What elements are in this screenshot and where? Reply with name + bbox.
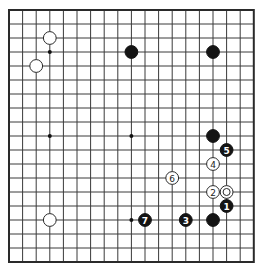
star-point	[129, 134, 133, 138]
move-number: 5	[223, 146, 229, 156]
white-stone-disc	[43, 214, 56, 227]
black-stone	[207, 46, 220, 59]
black-stone-disc	[125, 46, 138, 59]
black-stone: 7	[139, 214, 152, 227]
black-stone	[207, 214, 220, 227]
black-stone-disc	[207, 214, 220, 227]
move-number: 6	[169, 174, 175, 184]
white-stone	[43, 32, 56, 45]
black-stone-disc	[207, 46, 220, 59]
star-point	[48, 134, 52, 138]
white-stone: 4	[207, 158, 220, 171]
move-number: 3	[183, 216, 189, 226]
white-stone	[220, 186, 233, 199]
white-stone-disc	[43, 32, 56, 45]
white-stone: 6	[166, 172, 179, 185]
go-board: 1234567	[0, 0, 263, 271]
black-stone	[207, 130, 220, 143]
move-number: 2	[210, 188, 216, 198]
black-stone: 3	[179, 214, 192, 227]
white-stone	[30, 60, 43, 73]
white-stone-disc	[30, 60, 43, 73]
black-stone: 1	[220, 200, 233, 213]
star-point	[129, 218, 133, 222]
star-point	[48, 50, 52, 54]
move-number: 4	[210, 160, 216, 170]
black-stone	[125, 46, 138, 59]
black-stone: 5	[220, 144, 233, 157]
black-stone-disc	[207, 130, 220, 143]
move-number: 1	[223, 202, 229, 212]
white-stone	[43, 214, 56, 227]
white-stone-disc	[220, 186, 233, 199]
white-stone: 2	[207, 186, 220, 199]
move-number: 7	[142, 216, 148, 226]
